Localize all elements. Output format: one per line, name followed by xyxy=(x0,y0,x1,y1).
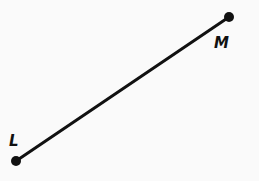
point-m xyxy=(224,12,234,22)
line-segment-diagram: L M xyxy=(0,0,259,181)
segment-lm xyxy=(16,17,229,161)
label-l: L xyxy=(9,132,19,150)
label-m: M xyxy=(214,34,229,52)
point-l xyxy=(11,156,21,166)
